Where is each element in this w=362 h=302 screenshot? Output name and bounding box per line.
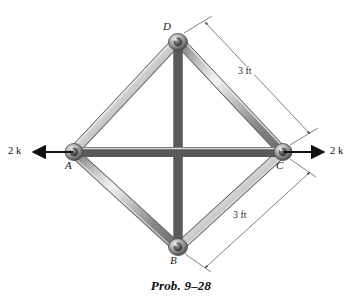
member-d-c [178,38,286,153]
joint-label-b: B [170,255,177,266]
joint-label-c: C [276,160,283,171]
load-label-right: 2 k [330,146,343,157]
load-label-left: 2 k [8,146,21,157]
joint-b [169,239,188,256]
figure-caption: Prob. 9–28 [0,278,362,294]
truss-diagram-canvas [0,0,362,302]
member-a-b [71,152,178,251]
member-a-d [71,38,179,153]
joint-label-d: D [163,21,171,32]
dimension-label-bc: 3 ft [231,210,249,220]
joint-label-a: A [65,160,72,171]
truss-figure: D A C B 2 k 2 k 3 ft 3 ft Prob. 9–28 [0,0,362,302]
member-b-c [178,152,285,251]
dimension-label-dc: 3 ft [236,66,254,76]
joint-d [169,34,188,51]
dimension-line-dc [184,16,318,145]
member-a-c [73,149,283,152]
